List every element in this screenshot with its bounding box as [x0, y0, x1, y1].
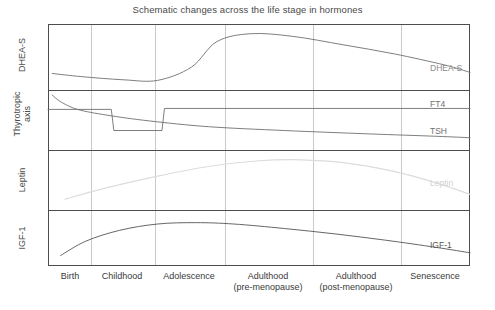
x-axis-label-adulthood-post: Adulthood (post-menopause)	[312, 271, 400, 293]
y-axis-label-thyrotropic-line1: Thyrotropic	[12, 92, 22, 137]
series-label-igf-1: IGF-1	[430, 240, 452, 250]
series-label-leptin: Leptin	[430, 178, 453, 188]
curve-tsh	[52, 95, 470, 138]
x-axis-label-adolescence: Adolescence	[154, 271, 224, 282]
x-axis-label-adulthood-pre-line2: (pre-menopause)	[224, 282, 312, 293]
x-axis-label-birth-line1: Birth	[61, 271, 80, 281]
y-axis-label-leptin: Leptin	[17, 150, 27, 210]
curve-layer	[48, 24, 470, 266]
x-axis-label-senescence: Senescence	[400, 271, 470, 282]
curve-ft4	[48, 108, 470, 130]
y-axis-label-dhea-s: DHEA-S	[17, 25, 27, 85]
x-axis-label-senescence-line1: Senescence	[410, 271, 460, 281]
series-label-dhea-s: DHEA-S	[430, 63, 462, 73]
x-axis-label-adulthood-pre-line1: Adulthood	[248, 271, 289, 281]
y-axis-label-thyrotropic-line2: axis	[22, 106, 32, 122]
curve-leptin	[65, 160, 470, 200]
x-axis-label-childhood-line1: Childhood	[102, 271, 143, 281]
x-axis-label-childhood: Childhood	[90, 271, 154, 282]
series-label-tsh: TSH	[430, 126, 447, 136]
curve-dhea-s	[52, 33, 470, 81]
x-axis-label-adolescence-line1: Adolescence	[163, 271, 215, 281]
x-axis-label-adulthood-pre: Adulthood (pre-menopause)	[224, 271, 312, 293]
series-label-ft4: FT4	[430, 99, 445, 109]
x-axis-label-adulthood-post-line1: Adulthood	[336, 271, 377, 281]
curve-igf-1	[61, 223, 470, 256]
x-axis-label-birth: Birth	[49, 271, 91, 282]
x-axis-label-adulthood-post-line2: (post-menopause)	[312, 282, 400, 293]
chart-root: Schematic changes across the life stage …	[0, 0, 495, 310]
chart-title: Schematic changes across the life stage …	[0, 4, 495, 15]
y-axis-label-igf-1: IGF-1	[17, 208, 27, 268]
y-axis-label-thyrotropic-axis: Thyrotropic axis	[12, 88, 32, 140]
